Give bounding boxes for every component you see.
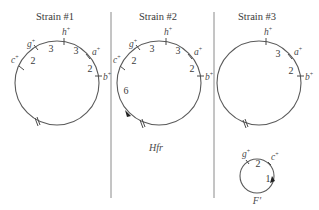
gene-label-c: c+ bbox=[11, 54, 19, 65]
chromosome-ring bbox=[117, 41, 201, 125]
gene-label-h: h+ bbox=[62, 26, 71, 37]
distance-c-origin: 1 bbox=[266, 173, 271, 184]
f-prime-episome: g+ c+ 2 1 F′ bbox=[240, 148, 279, 206]
panel-title: Strain #1 bbox=[36, 11, 74, 22]
gene-label-c: c+ bbox=[113, 54, 121, 65]
panel-strain-3: Strain #3 h+ a+ b+ 3 2 g+ c+ 2 bbox=[217, 11, 314, 206]
gene-label-h: h+ bbox=[164, 26, 173, 37]
panel-title: Strain #3 bbox=[238, 11, 276, 22]
gene-label-c: c+ bbox=[271, 151, 279, 162]
distance-g-h: 3 bbox=[150, 43, 155, 54]
gene-label-a: a+ bbox=[194, 46, 203, 57]
chromosome-ring bbox=[217, 41, 301, 125]
panel-strain-1: Strain #1 c+ g+ h+ a+ b+ 2 3 3 2 bbox=[11, 11, 112, 126]
panel-strain-2: Strain #2 c+ g+ h+ a+ b+ 2 3 3 2 6 H bbox=[113, 11, 214, 153]
gene-label-a: a+ bbox=[92, 46, 101, 57]
gene-label-b: b+ bbox=[205, 71, 214, 82]
distance-a-b: 2 bbox=[289, 65, 294, 76]
distance-g-h: 3 bbox=[49, 43, 54, 54]
diagram-canvas: Strain #1 c+ g+ h+ a+ b+ 2 3 3 2 Strain bbox=[0, 0, 319, 210]
episome-caption: F′ bbox=[252, 195, 262, 206]
distance-c-g: 2 bbox=[132, 55, 137, 66]
gene-label-h: h+ bbox=[264, 26, 273, 37]
strain-type-caption: Hfr bbox=[148, 142, 163, 153]
distance-origin-c: 6 bbox=[124, 85, 129, 96]
panel-title: Strain #2 bbox=[139, 11, 177, 22]
chromosome-ring bbox=[15, 41, 99, 125]
gene-label-g: g+ bbox=[242, 148, 251, 159]
distance-h-a: 3 bbox=[74, 45, 79, 56]
gene-marker-c bbox=[120, 66, 125, 70]
distance-g-c: 2 bbox=[256, 158, 261, 169]
distance-a-b: 2 bbox=[88, 63, 93, 74]
conjugation-map-figure: Strain #1 c+ g+ h+ a+ b+ 2 3 3 2 Strain bbox=[0, 0, 319, 210]
distance-a-b: 2 bbox=[190, 63, 195, 74]
gene-label-a: a+ bbox=[294, 46, 303, 57]
distance-h-a: 3 bbox=[176, 45, 181, 56]
gene-label-b: b+ bbox=[305, 71, 314, 82]
gene-marker-c bbox=[19, 66, 24, 70]
distance-h-a: 3 bbox=[276, 48, 281, 59]
distance-c-g: 2 bbox=[31, 55, 36, 66]
gene-label-b: b+ bbox=[103, 71, 112, 82]
